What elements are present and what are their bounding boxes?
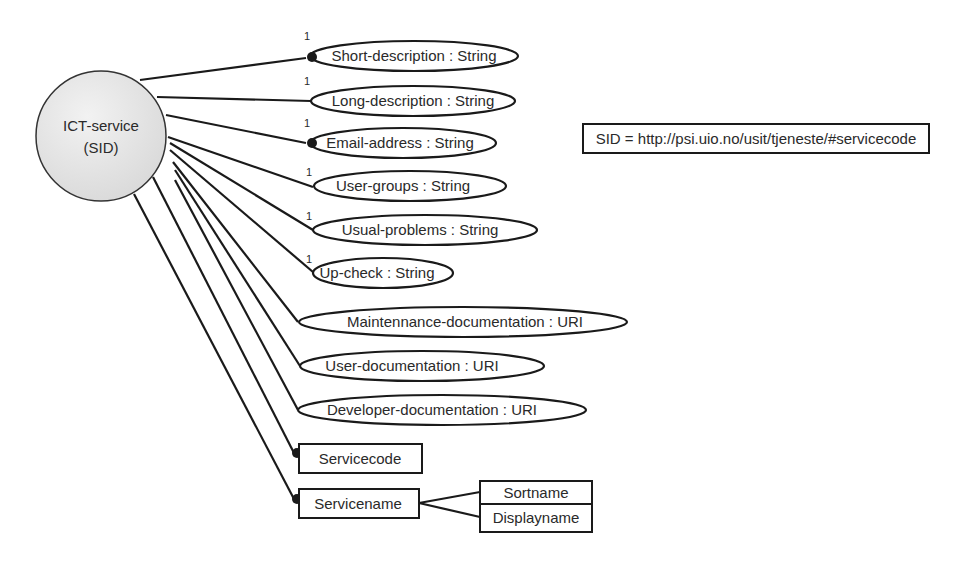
connector-long-description <box>157 97 311 101</box>
attribute-developer-documentation: Developer-documentation : URI <box>298 395 586 425</box>
attribute-long-description: 1 Long-description : String <box>304 75 515 116</box>
attribute-user-documentation: User-documentation : URI <box>300 351 544 381</box>
attribute-label: User-documentation : URI <box>325 357 498 374</box>
connector-short-description <box>140 58 306 80</box>
required-dot-icon <box>307 52 317 62</box>
connector-displayname <box>419 503 480 517</box>
attribute-up-check: 1 Up-check : String <box>306 253 453 288</box>
connector-servicecode <box>153 177 294 453</box>
cardinality-label: 1 <box>304 117 310 129</box>
attribute-label: Usual-problems : String <box>342 221 499 238</box>
attribute-label: Developer-documentation : URI <box>327 401 537 418</box>
connector-sortname <box>419 492 480 503</box>
attribute-email-address: 1 Email-address : String <box>304 117 496 158</box>
ict-service-diagram: ICT-service (SID) 1 Short-description : … <box>0 0 967 572</box>
attribute-short-description: 1 Short-description : String <box>304 30 518 71</box>
cardinality-label: 1 <box>306 253 312 265</box>
attribute-label: Short-description : String <box>331 47 496 64</box>
name-variant-sortname: Sortname <box>480 481 592 504</box>
cardinality-label: 1 <box>304 75 310 87</box>
sid-note: SID = http://psi.uio.no/usit/tjeneste/#s… <box>583 124 929 153</box>
attribute-user-groups: 1 User-groups : String <box>306 166 506 201</box>
sid-note-text: SID = http://psi.uio.no/usit/tjeneste/#s… <box>596 130 917 147</box>
connector-developer-documentation <box>175 180 298 410</box>
attribute-label: Email-address : String <box>326 134 474 151</box>
name-variant-displayname: Displayname <box>480 504 592 532</box>
attribute-maintenance-documentation: Maintennance-documentation : URI <box>299 307 627 337</box>
cardinality-label: 1 <box>304 30 310 42</box>
identifier-servicecode: Servicecode <box>299 444 422 473</box>
required-dot-icon <box>307 138 317 148</box>
name-variant-label: Sortname <box>503 484 568 501</box>
identifier-servicename: Servicename <box>299 489 419 518</box>
identifier-label: Servicename <box>314 495 402 512</box>
attribute-label: Long-description : String <box>332 92 495 109</box>
connector-user-groups <box>168 137 313 187</box>
attribute-list: 1 Short-description : String 1 Long-desc… <box>298 30 627 425</box>
entity-ict-service: ICT-service (SID) <box>36 71 166 201</box>
attribute-label: User-groups : String <box>336 177 470 194</box>
cardinality-label: 1 <box>306 166 312 178</box>
connector-user-documentation <box>175 170 300 366</box>
entity-key: (SID) <box>84 139 119 156</box>
attribute-label: Maintennance-documentation : URI <box>347 313 583 330</box>
identifier-label: Servicecode <box>319 450 402 467</box>
entity-name: ICT-service <box>63 117 139 134</box>
name-variant-label: Displayname <box>493 509 580 526</box>
identifier-list: Servicecode Servicename Sortname Display… <box>299 444 592 532</box>
entity-circle <box>36 71 166 201</box>
attribute-label: Up-check : String <box>319 264 434 281</box>
connector-email-address <box>166 115 306 143</box>
connector-servicename <box>134 194 294 499</box>
cardinality-label: 1 <box>306 210 312 222</box>
attribute-usual-problems: 1 Usual-problems : String <box>306 210 537 245</box>
